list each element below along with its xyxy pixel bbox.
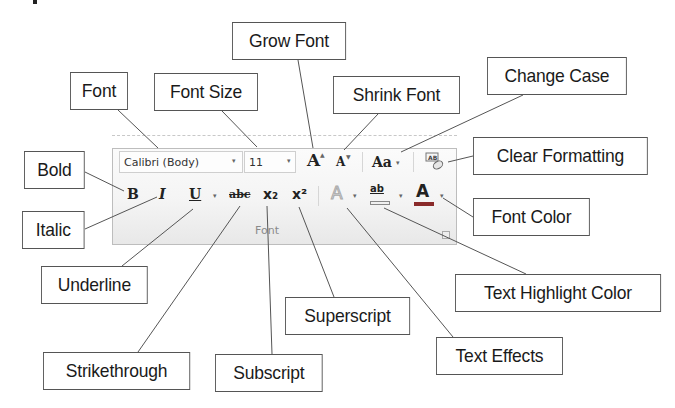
font-name-combobox[interactable]: Calibri (Body) [119, 151, 243, 173]
bold-button[interactable]: B [127, 186, 139, 202]
callout-change-case: Change Case [487, 57, 627, 95]
change-case-dropdown-arrow[interactable]: ▾ [396, 159, 400, 167]
callout-italic: Italic [22, 211, 85, 249]
highlight-color-bar [370, 201, 390, 205]
callout-strikethrough: Strikethrough [43, 352, 190, 390]
callout-font-size: Font Size [154, 73, 258, 111]
font-name-dropdown-arrow[interactable]: ▾ [232, 157, 236, 165]
font-name-value: Calibri (Body) [124, 156, 199, 169]
callout-font-color: Font Color [473, 198, 590, 236]
ribbon-separator [362, 152, 363, 172]
callout-font: Font [70, 72, 128, 110]
cropped-heading-fragment [33, 0, 37, 4]
clear-formatting-icon[interactable]: AB [425, 152, 445, 170]
svg-text:AB: AB [428, 154, 438, 161]
ribbon-separator [318, 186, 319, 206]
callout-grow-font: Grow Font [232, 22, 346, 60]
text-effects-button[interactable]: A [331, 183, 343, 203]
ribbon-top-divider [112, 135, 457, 136]
italic-button[interactable]: I [159, 186, 166, 202]
shrink-font-icon[interactable]: A [336, 155, 345, 169]
underline-button[interactable]: U [189, 186, 201, 202]
font-color-bar [414, 202, 434, 206]
callout-text-effects: Text Effects [436, 337, 563, 375]
callout-bold: Bold [24, 151, 85, 189]
font-size-dropdown-arrow[interactable]: ▾ [287, 157, 291, 165]
font-dialog-launcher-icon[interactable] [442, 231, 450, 239]
text-highlight-button[interactable]: ab [370, 183, 384, 194]
grow-font-icon[interactable]: A [307, 150, 320, 170]
font-color-button[interactable]: A [416, 181, 429, 201]
shrink-font-caret-icon: ▼ [346, 153, 351, 160]
callout-subscript: Subscript [215, 354, 323, 392]
font-group-label: Font [255, 224, 279, 237]
callout-underline: Underline [41, 266, 148, 304]
text-highlight-dropdown-arrow[interactable]: ▾ [399, 192, 403, 200]
font-size-value: 11 [249, 156, 263, 169]
callout-text-highlight-color: Text Highlight Color [455, 274, 661, 312]
change-case-icon[interactable]: Aa [372, 154, 392, 170]
superscript-button[interactable]: x² [292, 186, 307, 202]
text-effects-dropdown-arrow[interactable]: ▾ [353, 192, 357, 200]
callout-superscript: Superscript [285, 297, 410, 335]
font-color-dropdown-arrow[interactable]: ▾ [440, 192, 444, 200]
callout-clear-formatting: Clear Formatting [473, 137, 648, 175]
strikethrough-button[interactable]: abc [229, 188, 251, 201]
underline-dropdown-arrow[interactable]: ▾ [213, 192, 217, 200]
ribbon-separator [413, 152, 414, 172]
grow-font-caret-icon: ▲ [320, 151, 325, 158]
subscript-button[interactable]: x₂ [263, 186, 278, 202]
callout-shrink-font: Shrink Font [333, 76, 460, 114]
